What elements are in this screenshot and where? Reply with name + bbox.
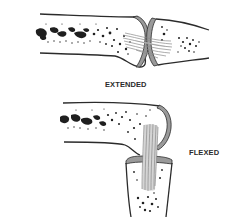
flexed-label: FLEXED [189,148,219,157]
ligament-flexed [142,124,158,191]
extended-label: EXTENDED [105,80,147,89]
flexed-joint-illustration [60,102,172,217]
proximal-bone-extended [36,14,146,67]
joint-diagram [0,0,230,217]
middle-bone-extended [156,19,209,65]
extended-joint-illustration [36,14,209,67]
